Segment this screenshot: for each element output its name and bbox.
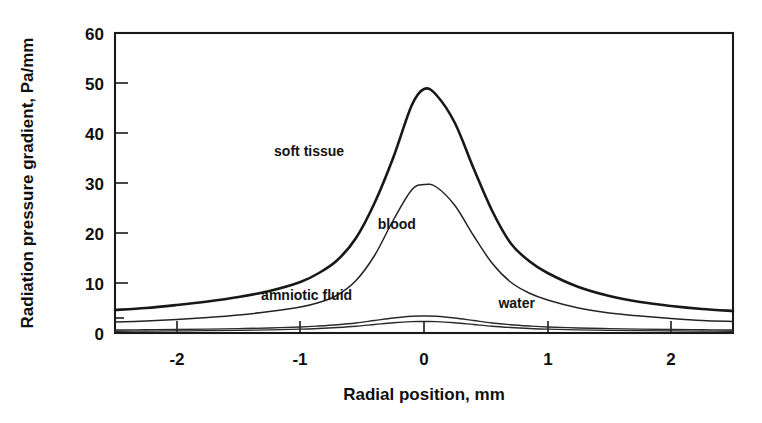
y-tick-label: 60 <box>85 25 104 44</box>
x-tick-label: -2 <box>169 350 184 369</box>
y-tick-label: 30 <box>85 175 104 194</box>
curve-label-amniotic-fluid: amniotic fluid <box>261 287 352 303</box>
x-tick-label: 1 <box>543 350 552 369</box>
x-tick-label: 0 <box>419 350 428 369</box>
y-tick-label: 20 <box>85 225 104 244</box>
y-axis-title: Radiation pressure gradient, Pa/mm <box>18 38 37 329</box>
figure-page: 60 50 40 30 20 10 0 -2 -1 0 1 2 Radial p… <box>0 0 762 423</box>
x-axis-title: Radial position, mm <box>343 385 505 404</box>
y-tick-label: 40 <box>85 125 104 144</box>
x-tick-label: -1 <box>292 350 307 369</box>
y-tick-label: 0 <box>95 325 104 344</box>
y-tick-label: 10 <box>85 275 104 294</box>
chart-figure: 60 50 40 30 20 10 0 -2 -1 0 1 2 Radial p… <box>0 0 762 423</box>
x-tick-label: 2 <box>666 350 675 369</box>
curve-label-blood: blood <box>378 216 416 232</box>
y-tick-label: 50 <box>85 75 104 94</box>
curve-label-water: water <box>497 295 535 311</box>
curve-label-soft-tissue: soft tissue <box>274 143 344 159</box>
